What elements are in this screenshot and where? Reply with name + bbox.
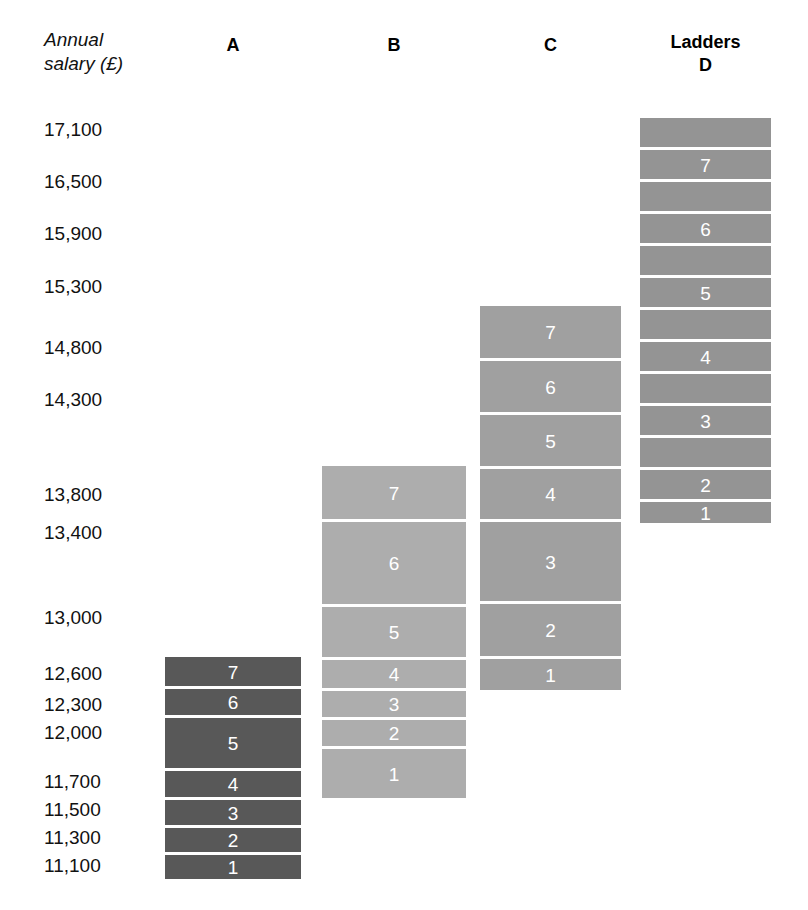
ladder-c-rung: 5 — [480, 415, 621, 466]
ladder-b-rung: 1 — [322, 749, 466, 798]
rung-label: 6 — [165, 693, 301, 712]
rung-label: 7 — [640, 155, 771, 174]
rung-label: 6 — [640, 219, 771, 238]
y-tick-label: 12,300 — [44, 695, 148, 714]
y-tick-label: 12,600 — [44, 664, 148, 683]
ladder-a-rung: 7 — [165, 657, 301, 686]
y-tick-label: 12,000 — [44, 723, 148, 742]
ladder-d-rung: 2 — [640, 470, 771, 499]
rung-label: 2 — [322, 724, 466, 743]
rung-label: 4 — [640, 347, 771, 366]
ladder-c-rung: 1 — [480, 659, 621, 690]
ladder-d-rung: 7 — [640, 150, 771, 179]
ladder-b-rung: 2 — [322, 720, 466, 746]
rung-label: 4 — [480, 485, 621, 504]
rung-label: 3 — [480, 552, 621, 571]
rung-label: 2 — [165, 831, 301, 850]
ladder-c-rung: 2 — [480, 604, 621, 656]
ladder-c-rung: 3 — [480, 522, 621, 601]
y-tick-label: 11,700 — [44, 772, 148, 791]
y-tick-label: 15,900 — [44, 224, 148, 243]
y-axis-title: Annual salary (£) — [44, 28, 174, 76]
ladder-a-rung: 1 — [165, 855, 301, 879]
ladder-b-rung: 7 — [322, 466, 466, 519]
y-tick-label: 13,400 — [44, 523, 148, 542]
rung-label: 5 — [322, 623, 466, 642]
rung-label: 1 — [165, 858, 301, 877]
ladder-b-rung: 4 — [322, 660, 466, 688]
ladder-a-rung: 5 — [165, 718, 301, 768]
ladder-a-rung: 4 — [165, 771, 301, 797]
y-tick-label: 13,000 — [44, 608, 148, 627]
ladder-b: 7654321 — [322, 0, 466, 910]
ladder-d-rung — [640, 310, 771, 339]
ladder-a: 7654321 — [165, 0, 301, 910]
ladder-d-rung — [640, 182, 771, 211]
rung-label: 5 — [480, 431, 621, 450]
y-tick-label: 13,800 — [44, 485, 148, 504]
rung-label: 3 — [640, 411, 771, 430]
ladder-c-rung: 6 — [480, 361, 621, 412]
y-tick-label: 11,300 — [44, 828, 148, 847]
rung-label: 7 — [165, 662, 301, 681]
y-tick-label: 11,100 — [44, 856, 148, 875]
rung-label: 6 — [480, 377, 621, 396]
ladder-d-rung: 3 — [640, 406, 771, 435]
y-tick-label: 14,300 — [44, 390, 148, 409]
y-tick-label: 17,100 — [44, 120, 148, 139]
rung-label: 6 — [322, 554, 466, 573]
rung-label: 2 — [640, 475, 771, 494]
ladder-a-rung: 6 — [165, 689, 301, 715]
y-tick-label: 14,800 — [44, 338, 148, 357]
rung-label: 5 — [640, 283, 771, 302]
ladder-d-rung: 1 — [640, 502, 771, 523]
ladder-d-rung — [640, 438, 771, 467]
rung-label: 3 — [165, 803, 301, 822]
ladder-c: 7654321 — [480, 0, 621, 910]
y-tick-label: 16,500 — [44, 172, 148, 191]
rung-label: 3 — [322, 695, 466, 714]
rung-label: 5 — [165, 734, 301, 753]
ladder-d-rung: 6 — [640, 214, 771, 243]
ladder-d-rung: 5 — [640, 278, 771, 307]
rung-label: 1 — [322, 764, 466, 783]
ladder-b-rung: 6 — [322, 522, 466, 604]
ladder-b-rung: 5 — [322, 607, 466, 657]
ladder-d: 7654321 — [640, 0, 771, 910]
salary-ladders-chart: Annual salary (£) A B C Ladders D 17,100… — [0, 0, 808, 910]
ladder-c-rung: 7 — [480, 306, 621, 358]
ladder-c-rung: 4 — [480, 469, 621, 519]
y-tick-label: 15,300 — [44, 277, 148, 296]
rung-label: 4 — [322, 665, 466, 684]
y-tick-label: 11,500 — [44, 800, 148, 819]
ladder-a-rung: 2 — [165, 828, 301, 852]
rung-label: 7 — [480, 323, 621, 342]
rung-label: 1 — [480, 665, 621, 684]
rung-label: 4 — [165, 775, 301, 794]
ladder-a-rung: 3 — [165, 800, 301, 825]
ladder-d-rung — [640, 118, 771, 147]
rung-label: 2 — [480, 621, 621, 640]
ladder-d-rung — [640, 246, 771, 275]
ladder-d-rung — [640, 374, 771, 403]
ladder-d-rung: 4 — [640, 342, 771, 371]
rung-label: 1 — [640, 503, 771, 522]
rung-label: 7 — [322, 483, 466, 502]
ladder-b-rung: 3 — [322, 691, 466, 717]
